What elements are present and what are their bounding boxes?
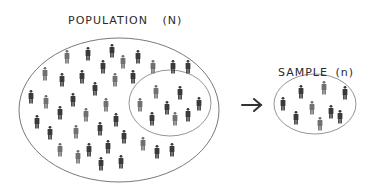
person-icon <box>106 140 111 154</box>
person-icon <box>29 90 34 104</box>
person-icon <box>80 70 85 84</box>
person-icon <box>299 85 304 99</box>
person-icon <box>58 143 63 157</box>
person-icon <box>71 93 76 107</box>
sample-ellipse <box>274 74 356 134</box>
person-icon <box>114 113 119 127</box>
person-icon <box>170 143 175 157</box>
person-icon <box>141 137 146 151</box>
person-icon <box>93 82 98 96</box>
person-icon <box>310 101 315 115</box>
person-icon <box>154 85 159 99</box>
person-icon <box>338 110 343 124</box>
person-icon <box>65 50 70 64</box>
sample-symbol: (n) <box>335 66 354 79</box>
person-icon <box>197 97 202 111</box>
person-icon <box>343 86 348 100</box>
person-icon <box>60 73 65 87</box>
person-icon <box>48 126 53 140</box>
person-icon <box>155 145 160 159</box>
person-icon <box>186 60 191 74</box>
person-icon <box>138 98 143 112</box>
person-icon <box>113 73 118 87</box>
person-icon <box>171 60 176 74</box>
person-icon <box>98 122 103 136</box>
sample-label: SAMPLE (n) <box>278 66 354 79</box>
person-icon <box>110 44 115 58</box>
person-icon <box>58 106 63 120</box>
person-icon <box>329 105 334 119</box>
person-icon <box>74 125 79 139</box>
person-icon <box>35 115 40 129</box>
person-icon <box>87 143 92 157</box>
person-icon <box>101 60 106 74</box>
person-icon <box>84 108 89 122</box>
population-title: POPULATION <box>68 14 148 27</box>
person-icon <box>294 111 299 125</box>
person-icon <box>99 157 104 171</box>
people-icons <box>29 44 348 171</box>
person-icon <box>151 60 156 74</box>
person-icon <box>165 101 170 115</box>
person-icon <box>86 47 91 61</box>
person-icon <box>131 70 136 84</box>
person-icon <box>318 117 323 131</box>
population-label: POPULATION (N) <box>68 14 182 27</box>
person-icon <box>281 97 286 111</box>
person-icon <box>150 112 155 126</box>
person-icon <box>43 67 48 81</box>
person-icon <box>121 55 126 69</box>
person-icon <box>136 50 141 64</box>
person-icon <box>322 81 327 95</box>
person-icon <box>186 108 191 122</box>
arrow-icon <box>242 99 261 111</box>
person-icon <box>178 86 183 100</box>
sample-title: SAMPLE <box>278 66 328 79</box>
person-icon <box>173 112 178 126</box>
person-icon <box>119 155 124 169</box>
person-icon <box>104 98 109 112</box>
person-icon <box>122 130 127 144</box>
population-sample-diagram <box>0 0 373 185</box>
person-icon <box>76 150 81 164</box>
population-symbol: (N) <box>162 14 182 27</box>
person-icon <box>44 95 49 109</box>
